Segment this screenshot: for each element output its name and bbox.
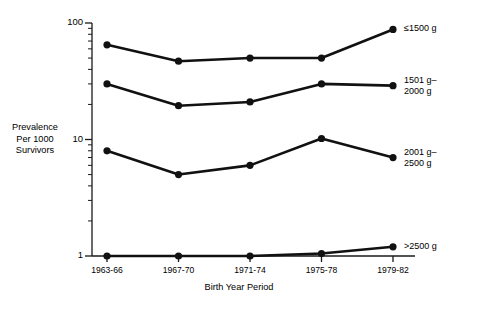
series-label-0-line-1: ≤1500 g [404,23,436,33]
series-line-2 [107,138,393,174]
series-point-2-3 [318,135,325,142]
y-axis-title-line-2: Per 1000 [16,134,53,144]
series-point-1-3 [318,80,325,87]
series-label-over-2500g: >2500 g [404,241,466,253]
series-point-0-3 [318,54,325,61]
x-tick-label-1971-74: 1971-74 [224,265,276,275]
x-axis-title: Birth Year Period [0,282,478,292]
series-point-3-4 [389,243,396,250]
series-label-3-line-1: >2500 g [404,241,437,251]
series-point-2-2 [246,162,253,169]
series-point-3-1 [175,252,182,259]
series-point-0-4 [389,26,396,33]
x-tick-label-1975-78: 1975-78 [296,265,348,275]
chart-series-group [103,26,396,260]
series-point-3-0 [103,252,110,259]
series-point-3-2 [246,252,253,259]
series-label-1-line-1: 1501 g– [404,75,437,85]
y-axis-title: PrevalencePer 1000Survivors [6,122,64,157]
series-point-2-0 [103,147,110,154]
x-tick-label-1979-82: 1979-82 [367,265,419,275]
x-tick-label-1967-70: 1967-70 [153,265,205,275]
series-label-2-line-1: 2001 g– [404,147,437,157]
series-point-2-4 [389,154,396,161]
series-label-2-line-2: 2500 g [404,158,432,168]
series-point-0-0 [103,41,110,48]
y-tick-label-1: 1 [59,249,83,260]
series-point-1-0 [103,80,110,87]
y-tick-label-100: 100 [59,16,83,27]
series-point-1-2 [246,98,253,105]
series-point-1-4 [389,82,396,89]
series-point-0-1 [175,58,182,65]
chart-container: 100 10 1 PrevalencePer 1000Survivors 196… [0,0,478,309]
series-label-under-1500g: ≤1500 g [404,23,466,35]
y-axis-title-line-3: Survivors [16,145,54,155]
series-label-1-line-2: 2000 g [404,86,432,96]
x-tick-label-1963-66: 1963-66 [81,265,133,275]
series-point-0-2 [246,54,253,61]
series-point-1-1 [175,102,182,109]
series-point-2-1 [175,171,182,178]
series-label-1501-2000g: 1501 g–2000 g [404,75,466,98]
y-axis-title-line-1: Prevalence [12,122,58,132]
series-point-3-3 [318,250,325,257]
series-label-2001-2500g: 2001 g–2500 g [404,147,466,170]
